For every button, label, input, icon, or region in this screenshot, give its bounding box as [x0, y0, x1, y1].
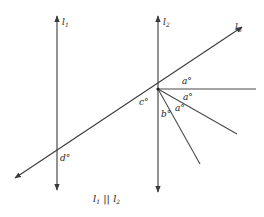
ray-3: [158, 89, 200, 164]
angle-label-c: c°: [139, 97, 149, 107]
angle-label-d: d°: [60, 153, 70, 163]
intersection-point: [156, 87, 159, 90]
line-l3: [15, 27, 242, 178]
geometry-diagram: l1 l2 l3 a° a° a° b° c° d° l1 || l2: [0, 0, 264, 217]
label-l2: l2: [163, 17, 170, 28]
label-l1: l1: [62, 17, 69, 28]
parallel-caption: l1 || l2: [93, 193, 120, 205]
label-l3: l3: [235, 22, 242, 33]
angle-label-a-middle: a°: [183, 92, 193, 102]
angle-label-a-bottom: a°: [175, 103, 185, 113]
angle-label-a-top: a°: [182, 76, 192, 86]
angle-label-b: b°: [161, 109, 171, 119]
